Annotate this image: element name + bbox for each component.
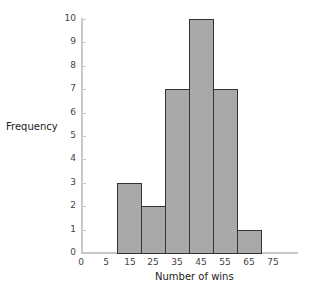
histogram-bar [237, 230, 262, 254]
y-tick-label: 6 [62, 107, 76, 117]
y-tick-mark [83, 183, 86, 184]
histogram-chart: Frequency Number of wins 012345678910 05… [0, 0, 312, 295]
y-tick-mark [83, 230, 86, 231]
x-tick-label: 15 [120, 257, 140, 267]
histogram-bar [165, 89, 190, 254]
y-tick-mark [83, 89, 86, 90]
y-tick-label: 10 [62, 13, 76, 23]
x-axis-label: Number of wins [155, 271, 234, 282]
y-tick-mark [83, 113, 86, 114]
y-tick-mark [83, 19, 86, 20]
x-tick-label: 55 [215, 257, 235, 267]
histogram-bar [213, 89, 238, 254]
y-tick-label: 3 [62, 177, 76, 187]
y-tick-mark [83, 159, 86, 160]
y-tick-label: 7 [62, 83, 76, 93]
y-axis-label: Frequency [6, 121, 58, 132]
x-tick-label: 65 [239, 257, 259, 267]
y-tick-label: 4 [62, 153, 76, 163]
y-tick-label: 9 [62, 36, 76, 46]
x-tick-label: 35 [167, 257, 187, 267]
histogram-bar [189, 19, 214, 254]
y-tick-mark [83, 42, 86, 43]
x-tick-label: 45 [191, 257, 211, 267]
y-tick-label: 2 [62, 200, 76, 210]
y-tick-label: 8 [62, 60, 76, 70]
x-tick-label: 0 [71, 257, 91, 267]
y-tick-label: 5 [62, 130, 76, 140]
histogram-bar [117, 183, 142, 254]
x-tick-label: 5 [96, 257, 116, 267]
x-tick-label: 75 [263, 257, 283, 267]
y-tick-mark [83, 136, 86, 137]
histogram-bar [141, 206, 166, 254]
y-tick-mark [83, 66, 86, 67]
y-tick-label: 1 [62, 224, 76, 234]
y-tick-label: 0 [62, 247, 76, 257]
x-tick-label: 25 [143, 257, 163, 267]
y-tick-mark [83, 206, 86, 207]
